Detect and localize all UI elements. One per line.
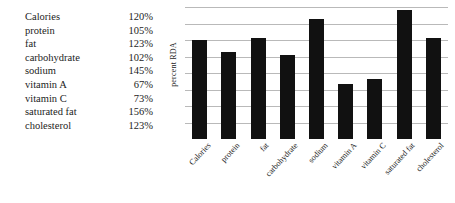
- bar: [251, 38, 266, 139]
- bar-chart: percent RDA Caloriesproteinfatcarbohydra…: [160, 0, 455, 203]
- nutrient-percent: 156%: [115, 105, 153, 119]
- table-row: Calories120%: [25, 10, 153, 24]
- nutrient-name: cholesterol: [25, 119, 115, 133]
- nutrient-name: vitamin C: [25, 92, 115, 106]
- nutrient-percent: 73%: [115, 92, 153, 106]
- x-tick-label: Calories: [137, 141, 212, 203]
- table-row: cholesterol123%: [25, 119, 153, 133]
- nutrient-percent: 105%: [115, 24, 153, 38]
- nutrient-percent: 102%: [115, 51, 153, 65]
- x-axis-tick-labels: Caloriesproteinfatcarbohydratesodiumvita…: [185, 141, 448, 203]
- bar: [367, 79, 382, 139]
- nutrition-table: Calories120%protein105%fat123%carbohydra…: [25, 10, 153, 132]
- table-row: vitamin A67%: [25, 78, 153, 92]
- table-row: protein105%: [25, 24, 153, 38]
- nutrient-name: carbohydrate: [25, 51, 115, 65]
- nutrient-name: saturated fat: [25, 105, 115, 119]
- nutrient-name: sodium: [25, 64, 115, 78]
- nutrient-name: fat: [25, 37, 115, 51]
- nutrient-percent: 123%: [115, 37, 153, 51]
- nutrient-percent: 145%: [115, 64, 153, 78]
- bar-series: [185, 7, 448, 139]
- nutrient-name: Calories: [25, 10, 115, 24]
- table-row: fat123%: [25, 37, 153, 51]
- bar: [309, 19, 324, 139]
- bar: [192, 40, 207, 139]
- table-row: carbohydrate102%: [25, 51, 153, 65]
- nutrient-name: protein: [25, 24, 115, 38]
- figure-root: Calories120%protein105%fat123%carbohydra…: [0, 0, 455, 203]
- nutrient-name: vitamin A: [25, 78, 115, 92]
- table-row: sodium145%: [25, 64, 153, 78]
- nutrient-percent: 120%: [115, 10, 153, 24]
- bar: [280, 55, 295, 139]
- bar: [221, 52, 236, 139]
- bar: [426, 38, 441, 139]
- table-row: saturated fat156%: [25, 105, 153, 119]
- nutrient-percent: 67%: [115, 78, 153, 92]
- plot-area: [185, 7, 448, 139]
- table-row: vitamin C73%: [25, 92, 153, 106]
- nutrient-percent: 123%: [115, 119, 153, 133]
- y-axis-label: percent RDA: [169, 30, 178, 100]
- bar: [397, 10, 412, 139]
- bar: [338, 84, 353, 139]
- table-body: Calories120%protein105%fat123%carbohydra…: [25, 10, 153, 132]
